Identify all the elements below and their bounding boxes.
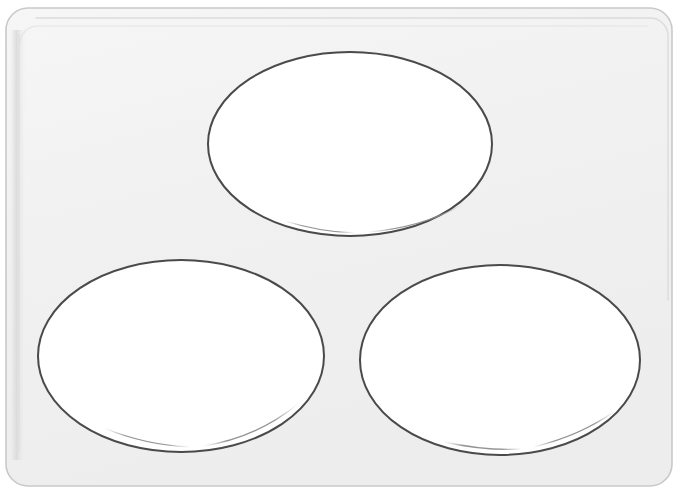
sheet-left-seam [10, 30, 26, 460]
label-sheet-canvas: Oval Label Sheet Template [0, 0, 680, 492]
label-top-center[interactable] [208, 52, 492, 236]
label-bottom-left[interactable] [38, 260, 324, 452]
label-bottom-left-outline[interactable] [38, 260, 324, 452]
label-bottom-right-outline[interactable] [360, 265, 640, 455]
label-top-center-outline[interactable] [208, 52, 492, 236]
label-sheet-vector [0, 0, 680, 492]
label-bottom-right[interactable] [360, 265, 640, 455]
